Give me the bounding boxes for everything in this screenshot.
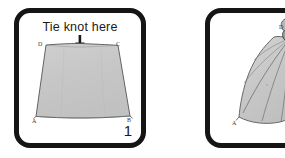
knotted-cloth-drawing	[210, 13, 285, 143]
panel-2-inner: D A	[210, 13, 285, 143]
panel-2: D A	[205, 8, 285, 148]
panel-1: Tie knot here	[14, 8, 146, 148]
panel-1-number: 1	[124, 122, 132, 139]
panel-1-inner: Tie knot here	[19, 13, 141, 143]
figure-container: Tie knot here	[0, 0, 285, 158]
